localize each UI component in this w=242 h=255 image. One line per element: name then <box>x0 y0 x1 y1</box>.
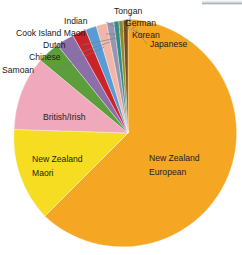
ethnicity-pie-chart: Samoan Chinese Dutch Cook Island Maori I… <box>0 0 242 255</box>
label-new-zealand-european-line1: New Zealand <box>149 153 200 163</box>
pie-chart-figure: Samoan Chinese Dutch Cook Island Maori I… <box>0 0 242 255</box>
label-dutch: Dutch <box>43 40 66 50</box>
label-new-zealand-european-line2: European <box>149 167 186 177</box>
label-new-zealand-maori-line2: Maori <box>32 168 54 178</box>
label-japanese: Japanese <box>150 39 187 49</box>
label-chinese: Chinese <box>29 52 61 62</box>
label-new-zealand-maori-line1: New Zealand <box>32 154 83 164</box>
label-samoan: Samoan <box>2 65 34 75</box>
label-british-irish: British/Irish <box>43 112 86 122</box>
label-german: German <box>125 18 156 28</box>
label-tongan: Tongan <box>114 6 142 16</box>
label-cook-island-maori: Cook Island Maori <box>16 28 85 38</box>
label-indian: Indian <box>64 16 88 26</box>
